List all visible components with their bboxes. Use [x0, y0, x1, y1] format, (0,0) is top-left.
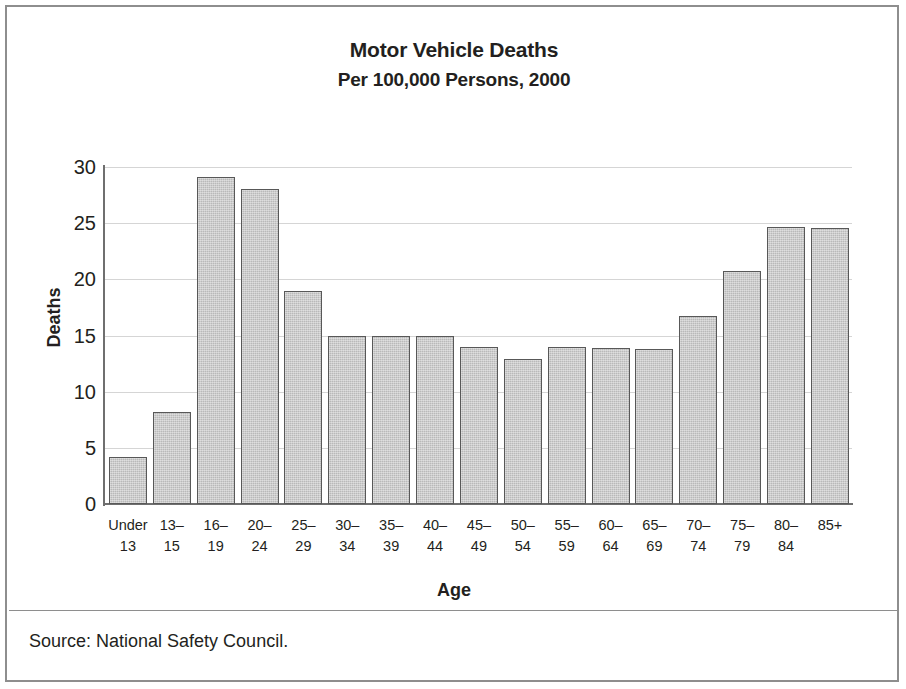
source-note: Source: National Safety Council. [29, 631, 288, 652]
bar[interactable] [767, 227, 805, 504]
x-tick-label-line: 20– [238, 515, 282, 536]
bar[interactable] [592, 348, 630, 504]
y-axis-line [103, 165, 105, 506]
x-tick-label: Under13 [106, 515, 150, 557]
bar[interactable] [241, 189, 279, 504]
x-tick-label-line: 50– [501, 515, 545, 536]
bar[interactable] [197, 177, 235, 504]
bar[interactable] [460, 347, 498, 504]
bar[interactable] [328, 336, 366, 505]
x-tick-label: 50–54 [501, 515, 545, 557]
bar[interactable] [372, 336, 410, 505]
x-tick-label: 20–24 [238, 515, 282, 557]
x-axis-tick-labels: Under1313–1516–1920–2425–2930–3435–3940–… [106, 515, 852, 557]
bar[interactable] [284, 291, 322, 504]
x-tick-label-line: Under [106, 515, 150, 536]
x-tick-label-line: 69 [633, 536, 677, 557]
x-tick-label-line: 19 [194, 536, 238, 557]
x-tick-label: 65–69 [633, 515, 677, 557]
x-tick-label: 80–84 [764, 515, 808, 557]
x-tick-label: 16–19 [194, 515, 238, 557]
x-tick-label-line: 40– [413, 515, 457, 536]
x-tick-label: 25–29 [282, 515, 326, 557]
bar[interactable] [723, 271, 761, 504]
bar-slot [150, 167, 194, 504]
y-tick-label: 5 [52, 438, 96, 458]
bar-slot [720, 167, 764, 504]
bar-slot [238, 167, 282, 504]
x-tick-label: 85+ [808, 515, 852, 557]
bar-slot [457, 167, 501, 504]
bar-slot [808, 167, 852, 504]
y-tick-label: 30 [52, 157, 96, 177]
bar[interactable] [153, 412, 191, 504]
bar-slot [764, 167, 808, 504]
bar-slot [369, 167, 413, 504]
bar-slot [589, 167, 633, 504]
x-tick-label-line: 60– [589, 515, 633, 536]
x-tick-label-line: 39 [369, 536, 413, 557]
bars-layer [106, 167, 852, 504]
bar[interactable] [548, 347, 586, 504]
x-tick-label-line: 16– [194, 515, 238, 536]
chart-title-block: Motor Vehicle Deaths Per 100,000 Persons… [7, 37, 901, 93]
bar[interactable] [416, 336, 454, 505]
y-tick-label: 25 [52, 213, 96, 233]
x-tick-label-line: 74 [676, 536, 720, 557]
bar[interactable] [679, 316, 717, 504]
bar-slot [106, 167, 150, 504]
x-tick-label-line: 64 [589, 536, 633, 557]
x-tick-label-line: 25– [282, 515, 326, 536]
y-tick-label: 0 [52, 494, 96, 514]
bar[interactable] [109, 457, 147, 504]
figure-frame: Motor Vehicle Deaths Per 100,000 Persons… [5, 5, 899, 682]
y-tick-label: 10 [52, 382, 96, 402]
x-axis-title: Age [7, 580, 901, 601]
x-tick-label-line: 30– [325, 515, 369, 536]
bar-slot [676, 167, 720, 504]
x-tick-label-line: 15 [150, 536, 194, 557]
x-tick-label: 35–39 [369, 515, 413, 557]
x-tick-label-line: 24 [238, 536, 282, 557]
x-tick-label-line: 34 [325, 536, 369, 557]
x-tick-label: 55–59 [545, 515, 589, 557]
x-tick-label-line: 84 [764, 536, 808, 557]
x-tick-label: 13–15 [150, 515, 194, 557]
y-axis-title: Deaths [44, 258, 65, 378]
x-tick-label: 75–79 [720, 515, 764, 557]
bar-slot [501, 167, 545, 504]
x-tick-label-line: 54 [501, 536, 545, 557]
x-tick-label: 70–74 [676, 515, 720, 557]
x-tick-label-line: 49 [457, 536, 501, 557]
x-tick-label-line: 44 [413, 536, 457, 557]
bar-slot [545, 167, 589, 504]
page-title: Motor Vehicle Deaths [7, 37, 901, 63]
x-tick-label-line: 55– [545, 515, 589, 536]
x-tick-label-line: 85+ [808, 515, 852, 536]
x-tick-label: 60–64 [589, 515, 633, 557]
x-tick-label-line: 13 [106, 536, 150, 557]
bar-slot [633, 167, 677, 504]
x-tick-label-line: 65– [633, 515, 677, 536]
x-tick-label-line: 13– [150, 515, 194, 536]
x-tick-label-line: 35– [369, 515, 413, 536]
chart-subtitle: Per 100,000 Persons, 2000 [7, 67, 901, 93]
x-tick-label-line: 29 [282, 536, 326, 557]
x-tick-label-line: 80– [764, 515, 808, 536]
bar[interactable] [635, 349, 673, 504]
x-tick-label: 45–49 [457, 515, 501, 557]
x-tick-label: 30–34 [325, 515, 369, 557]
x-tick-label: 40–44 [413, 515, 457, 557]
bar[interactable] [504, 359, 542, 504]
source-divider [9, 610, 899, 611]
bar-slot [413, 167, 457, 504]
bar-slot [194, 167, 238, 504]
x-tick-label-line: 79 [720, 536, 764, 557]
x-tick-label-line: 70– [676, 515, 720, 536]
bar-slot [282, 167, 326, 504]
x-tick-label-line: 45– [457, 515, 501, 536]
x-tick-label-line: 75– [720, 515, 764, 536]
x-tick-label-line: 59 [545, 536, 589, 557]
bar-slot [325, 167, 369, 504]
bar[interactable] [811, 228, 849, 504]
